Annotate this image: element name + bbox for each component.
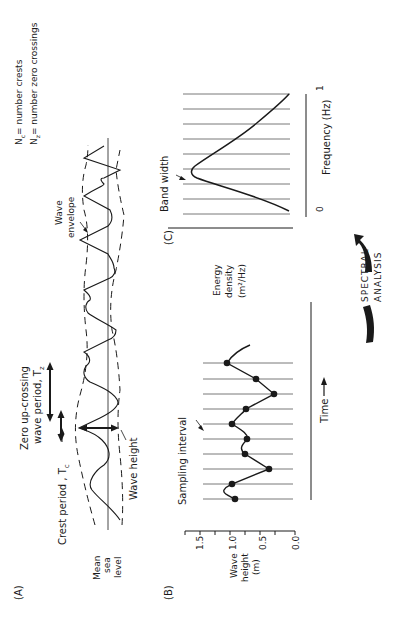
analysis-label: ANALYSIS [373,252,383,302]
tick-1-0: 1.0 [228,535,238,550]
tc-period-arrow [58,410,65,442]
energy-density-label-1: Energy [212,264,222,296]
wave-envelope-label-1: Wave [54,200,64,225]
energy-density-label-2: density [224,264,234,298]
wave-height-axis-label-3: (m) [251,559,261,575]
mean-sea-level-label-1: Mean [92,555,102,580]
energy-spectrum-curve [191,94,289,211]
frequency-label: Frequency (Hz) [321,99,332,175]
time-label: Time [319,399,330,424]
freq-tick-1: 1 [315,85,325,91]
sampling-gridlines [203,363,293,499]
wave-height-label: Wave height [128,437,139,500]
wave-envelope-upper [75,145,95,525]
wave-height-arrow [79,425,119,432]
panel-a-label: (A) [13,585,24,600]
panel-c-label: (C) [163,230,174,245]
wave-analysis-figure: Nc= number crests Nz= number zero crossi… [0,0,397,625]
time-arrow-icon [321,377,327,385]
panel-a: (A) Mean sea level Crest period , Tc Zer… [13,138,139,600]
tz-period-arrow [47,362,54,422]
legend-nc: Nc= number crests [14,59,26,145]
panel-c: (C) Energy density (m²/Hz) Band width 0 … [159,85,332,298]
crest-period-label: Crest period , Tc [57,464,71,545]
spectral-label: SPECTRAL [360,248,370,302]
sampling-interval-label: Sampling interval [177,417,188,505]
wave-height-axis-label-2: height [240,553,250,582]
zero-upcrossing-label-1: Zero up-crossing [19,366,30,450]
spectral-arrow-lower-icon [363,305,374,343]
wave-height-axis-label-1: Wave [229,553,239,578]
tick-0-0: 0.0 [291,535,301,550]
tick-0-5: 0.5 [258,536,268,550]
mean-sea-level-label-2: sea [102,557,112,573]
band-width-label: Band width [159,156,170,212]
energy-density-label-3: (m²/Hz) [237,264,247,298]
wave-envelope-label-2: envelope [66,196,76,238]
freq-tick-0: 0 [315,206,325,212]
wave-record [79,146,120,520]
panel-b: (B) Wave height (m) 1.5 1.0 0.5 0.0 [163,302,330,600]
tick-1-5: 1.5 [195,536,205,550]
mean-sea-level-label-3: level [113,557,123,578]
sample-points [224,360,278,503]
legend: Nc= number crests Nz= number zero crossi… [14,22,41,145]
spectral-analysis: SPECTRAL ANALYSIS [354,234,383,343]
panel-b-label: (B) [163,585,174,600]
legend-nz: Nz= number zero crossings [29,22,41,145]
zero-upcrossing-label-2: wave period, Tz [32,366,46,444]
frequency-gridlines [183,94,290,214]
